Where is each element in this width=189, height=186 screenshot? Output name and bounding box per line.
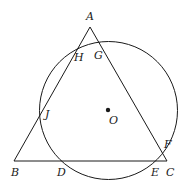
label-o: O xyxy=(109,114,118,127)
label-c: C xyxy=(166,166,175,179)
triangle-abc xyxy=(14,27,167,161)
label-f: F xyxy=(163,138,172,151)
label-j: J xyxy=(43,108,50,121)
label-b: B xyxy=(10,166,19,179)
label-e: E xyxy=(150,166,159,179)
geometry-diagram: A G H J O F B D E C xyxy=(0,0,189,186)
label-d: D xyxy=(56,166,66,179)
label-h: H xyxy=(73,51,84,64)
center-point-o xyxy=(106,108,110,112)
label-g: G xyxy=(94,49,103,62)
label-a: A xyxy=(85,10,94,23)
